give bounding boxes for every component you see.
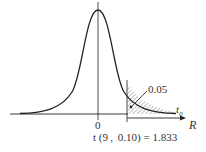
tail-area-label: 0.05 xyxy=(148,84,167,95)
axis-label: R xyxy=(189,119,196,131)
t-distribution-figure xyxy=(0,0,206,152)
formula-label: t (9 , 0.10) = 1.833 xyxy=(93,132,177,143)
leader-dot-icon xyxy=(130,106,133,109)
critical-label-sub: 0 xyxy=(179,110,183,118)
critical-label: t0 xyxy=(176,104,183,118)
origin-label: 0 xyxy=(95,120,101,131)
